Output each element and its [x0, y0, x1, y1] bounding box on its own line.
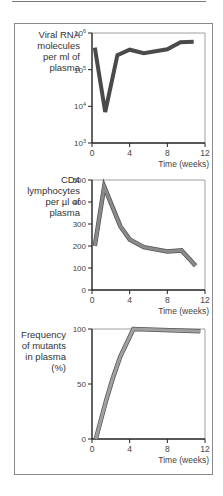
x-tick-label: 12	[200, 444, 210, 454]
x-axis-label: Time (weeks)	[158, 306, 209, 316]
x-axis-label: Time (weeks)	[158, 159, 209, 169]
x-tick-label: 12	[200, 295, 210, 305]
y-tick-label: 100	[73, 325, 87, 334]
y-tick-label: 300	[73, 220, 87, 229]
charts-canvas: 10310410510604812Time (weeks)01002003004…	[0, 0, 223, 496]
x-tick-label: 8	[165, 148, 170, 158]
x-tick-label: 0	[90, 148, 95, 158]
y-tick-label: 103	[74, 138, 86, 148]
y-tick-label: 200	[73, 242, 87, 251]
data-line	[95, 187, 196, 266]
x-tick-label: 0	[90, 295, 95, 305]
x-tick-label: 4	[127, 444, 132, 454]
y-tick-label: 0	[82, 286, 87, 295]
y-tick-label: 400	[73, 198, 87, 207]
y-tick-label: 0	[82, 435, 87, 444]
y-tick-label: 106	[74, 28, 86, 38]
x-tick-label: 12	[200, 148, 210, 158]
x-axis-label: Time (weeks)	[158, 455, 209, 465]
y-tick-label: 500	[73, 176, 87, 185]
cd4-chart: 010020030040050004812Time (weeks)	[73, 176, 210, 316]
y-tick-label: 105	[74, 65, 86, 75]
x-tick-label: 4	[127, 295, 132, 305]
x-tick-label: 4	[127, 148, 132, 158]
data-line	[96, 329, 201, 439]
mutant-frequency-chart: 05010004812Time (weeks)	[73, 325, 210, 465]
x-tick-label: 8	[165, 295, 170, 305]
y-tick-label: 50	[77, 380, 86, 389]
y-tick-label: 104	[74, 101, 86, 111]
x-tick-label: 8	[165, 444, 170, 454]
data-line	[95, 42, 194, 112]
viral-rna-chart: 10310410510604812Time (weeks)	[74, 28, 210, 169]
y-tick-label: 100	[73, 264, 87, 273]
x-tick-label: 0	[90, 444, 95, 454]
